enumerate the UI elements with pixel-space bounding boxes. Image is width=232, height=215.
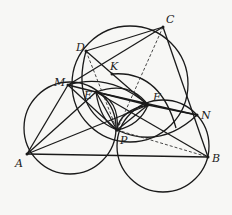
- label-a: A: [15, 158, 23, 169]
- label-f: F: [153, 92, 161, 103]
- seg-pc-dashed: [117, 27, 163, 130]
- geometry-diagram: C D K M E F N P A B: [0, 0, 232, 215]
- seg-cd: [86, 27, 163, 51]
- point-f: [147, 104, 150, 107]
- diagram-canvas: [0, 0, 232, 215]
- label-b: B: [212, 153, 220, 164]
- point-m: [67, 84, 70, 87]
- point-a: [26, 153, 29, 156]
- point-b: [207, 156, 210, 159]
- point-p: [115, 128, 119, 132]
- point-e: [95, 91, 98, 94]
- point-c: [162, 26, 165, 29]
- label-k: K: [110, 61, 118, 72]
- label-c: C: [166, 14, 174, 25]
- circle-cdp: [72, 26, 188, 142]
- label-e: E: [84, 90, 92, 101]
- seg-am: [27, 85, 68, 154]
- label-d: D: [76, 42, 85, 53]
- label-n: N: [201, 110, 211, 121]
- point-n: [196, 114, 199, 117]
- label-p: P: [120, 135, 127, 146]
- label-m: M: [54, 77, 65, 88]
- seg-pb-dashed: [117, 130, 208, 157]
- circle-bnp: [117, 100, 209, 192]
- seg-fn: [148, 105, 197, 115]
- seg-bc: [163, 27, 208, 157]
